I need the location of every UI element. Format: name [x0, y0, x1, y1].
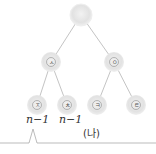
node-label-k: ㅋ: [94, 100, 101, 109]
tree-diagram: [0, 0, 156, 154]
node-label-s: ㅅ: [48, 57, 55, 66]
node-label-t: ㅌ: [133, 100, 140, 109]
baseline-spike: [0, 129, 156, 143]
node-label-ch: ㅊ: [64, 100, 71, 109]
right-count-label: n−1: [59, 113, 82, 126]
root-node: [70, 4, 92, 26]
node-label-j: ㅈ: [34, 100, 41, 109]
left-count-label: n−1: [26, 113, 49, 126]
node-label-o: ㅇ: [111, 57, 118, 66]
figure-caption: (나): [83, 125, 100, 140]
